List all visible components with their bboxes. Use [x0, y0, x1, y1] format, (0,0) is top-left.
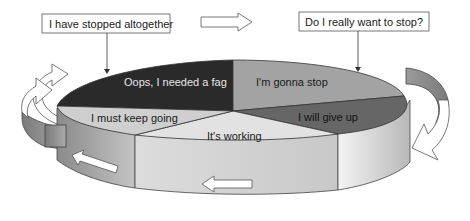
callout-left-text: I have stopped altogether: [49, 18, 173, 30]
callout-right: Do I really want to stop?: [299, 12, 429, 72]
callout-right-text: Do I really want to stop?: [305, 16, 423, 28]
slice-label-keepgoing: I must keep going: [91, 112, 178, 124]
right-curved-arrow: [406, 68, 449, 160]
slice-label-working: It's working: [207, 130, 262, 142]
slice-label-giveup: I will give up: [298, 111, 358, 123]
left-band-end: [45, 125, 66, 147]
stop-smoking-cycle-diagram: Oops, I needed a fag I'm gonna stop I wi…: [0, 0, 470, 221]
slice-label-gonna: I'm gonna stop: [256, 76, 328, 88]
top-right-arrow: [201, 13, 252, 31]
slice-label-oops: Oops, I needed a fag: [124, 76, 227, 88]
callout-left: I have stopped altogether: [42, 14, 173, 74]
pie-top: [57, 60, 407, 140]
